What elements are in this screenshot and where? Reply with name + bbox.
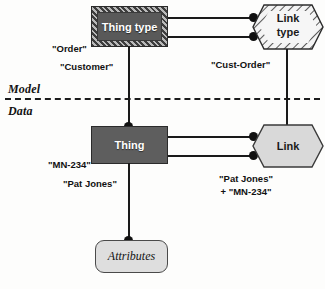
annotation-link-instance-line2: + "MN-234" xyxy=(201,185,291,198)
diagram-canvas: Thing type Link type "Order" "Customer" … xyxy=(0,0,325,289)
annotation-pat-jones: "Pat Jones" xyxy=(63,177,117,190)
annotation-customer: "Customer" xyxy=(60,60,113,73)
link-hexagon-icon xyxy=(252,124,324,168)
link-type-hexagon-icon xyxy=(252,4,324,50)
node-link[interactable]: Link xyxy=(252,124,324,168)
connector-thing-attributes xyxy=(128,163,130,242)
layer-label-data: Data xyxy=(8,104,33,119)
model-data-divider xyxy=(5,98,320,100)
node-thing-type-label: Thing type xyxy=(102,21,158,33)
annotation-link-instance-line1: "Pat Jones" xyxy=(201,172,291,185)
connector-thing-link-upper xyxy=(167,136,253,138)
connector-thingtype-linktype-lower xyxy=(167,36,253,38)
node-thing-type-inner: Thing type xyxy=(97,12,162,41)
node-attributes[interactable]: Attributes xyxy=(95,240,168,273)
layer-label-model: Model xyxy=(8,82,40,97)
node-attributes-label: Attributes xyxy=(108,249,155,264)
node-thing-label: Thing xyxy=(115,139,145,151)
annotation-cust-order: "Cust-Order" xyxy=(211,58,270,71)
annotation-mn-234: "MN-234" xyxy=(48,158,91,171)
node-link-type[interactable]: Link type xyxy=(252,4,324,50)
connector-thingtype-linktype-upper xyxy=(167,17,253,19)
annotation-order: "Order" xyxy=(52,42,87,55)
connector-thing-link-lower xyxy=(167,155,253,157)
connector-thingtype-thing xyxy=(128,46,130,130)
node-thing[interactable]: Thing xyxy=(91,126,168,164)
node-thing-type[interactable]: Thing type xyxy=(91,6,168,47)
